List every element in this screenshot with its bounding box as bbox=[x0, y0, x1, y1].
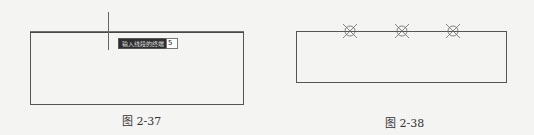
figure-2-38: 图 2-38 bbox=[0, 0, 534, 135]
lamp-icon bbox=[343, 24, 357, 38]
lamp-icon bbox=[395, 24, 409, 38]
lamp-icon bbox=[446, 24, 460, 38]
lamp-circuit-drawing bbox=[0, 0, 534, 135]
figure-caption: 图 2-38 bbox=[385, 114, 424, 130]
